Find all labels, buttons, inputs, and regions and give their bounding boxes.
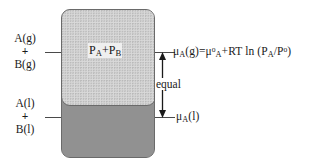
closing-paren: ) xyxy=(287,45,291,57)
left-label-gas-plus: + xyxy=(4,45,46,58)
diagram-canvas: A(g) + B(g) A(l) + B(l) PA+PB equal μA(g… xyxy=(0,0,315,167)
left-label-gas-species: A(g) + B(g) xyxy=(4,32,46,71)
left-label-liquid-a: A(l) xyxy=(4,97,46,110)
left-label-liquid-plus: + xyxy=(4,110,46,123)
equal-annotation-label: equal xyxy=(155,78,182,90)
chemical-potential-liquid-label: μA(l) xyxy=(176,110,199,125)
chemical-potential-gas-equation: μA(g)=μoA+RT ln (PA/Po) xyxy=(173,45,291,60)
left-label-liquid-species: A(l) + B(l) xyxy=(4,97,46,136)
vessel-container xyxy=(61,9,155,158)
partial-pressure-pa-symbol: P xyxy=(89,43,96,57)
partial-pressure-pb-subscript: B xyxy=(115,48,121,58)
mu-liquid-phase: (l) xyxy=(188,110,199,122)
rt-ln-term: +RT ln ( xyxy=(222,45,262,57)
partial-pressure-plus: + xyxy=(102,43,109,57)
pressure-ratio-denominator: /P xyxy=(274,45,284,57)
partial-pressure-label: PA+PB xyxy=(88,43,122,58)
left-label-gas-b: B(g) xyxy=(4,58,46,71)
left-label-liquid-b: B(l) xyxy=(4,123,46,136)
left-label-gas-a: A(g) xyxy=(4,32,46,45)
mu-gas-phase-and-equals: (g)= xyxy=(185,45,205,57)
